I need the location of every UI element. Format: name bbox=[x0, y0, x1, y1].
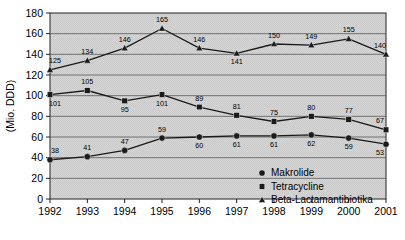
y-axis-tick-label: 140 bbox=[25, 48, 43, 60]
legend-label: Tetracycline bbox=[271, 181, 324, 192]
data-point-marker bbox=[197, 104, 203, 110]
data-point-label: 59 bbox=[345, 142, 353, 151]
data-point-marker bbox=[234, 113, 240, 119]
data-point-marker bbox=[85, 88, 91, 94]
data-point-label: 77 bbox=[345, 106, 353, 115]
data-point-label: 141 bbox=[231, 57, 243, 66]
data-point-label: 89 bbox=[195, 94, 203, 103]
data-point-label: 146 bbox=[193, 35, 205, 44]
x-axis-tick-label: 1993 bbox=[76, 205, 100, 217]
y-axis-tick-label: 180 bbox=[25, 7, 43, 19]
data-point-label: 146 bbox=[119, 35, 131, 44]
data-point-label: 47 bbox=[121, 137, 129, 146]
data-point-label: 150 bbox=[268, 31, 280, 40]
data-point-marker bbox=[47, 92, 53, 98]
data-point-label: 59 bbox=[158, 125, 166, 134]
data-point-marker bbox=[159, 135, 165, 141]
data-point-marker bbox=[383, 127, 389, 133]
data-point-label: 67 bbox=[376, 116, 384, 125]
data-point-label: 134 bbox=[81, 47, 93, 56]
data-point-marker bbox=[346, 117, 352, 123]
data-point-label: 41 bbox=[83, 143, 91, 152]
data-point-marker bbox=[309, 114, 315, 120]
data-point-marker bbox=[196, 134, 202, 140]
legend-marker-circle bbox=[259, 170, 265, 176]
data-point-marker bbox=[122, 98, 128, 104]
data-point-label: 61 bbox=[270, 140, 278, 149]
y-axis-tick-label: 40 bbox=[31, 151, 43, 163]
data-point-label: 155 bbox=[343, 25, 355, 34]
x-axis-tick-label: 1992 bbox=[38, 205, 62, 217]
data-point-label: 105 bbox=[81, 77, 93, 86]
y-axis-tick-label: 60 bbox=[31, 131, 43, 143]
x-axis-tick-label: 2000 bbox=[337, 205, 361, 217]
x-axis-tick-label: 1997 bbox=[225, 205, 249, 217]
data-point-label: 101 bbox=[49, 99, 61, 108]
data-point-marker bbox=[308, 132, 314, 138]
y-axis-tick-label: 0 bbox=[37, 193, 43, 205]
data-point-label: 53 bbox=[376, 148, 384, 157]
data-point-marker bbox=[346, 135, 352, 141]
data-point-label: 80 bbox=[307, 103, 315, 112]
data-point-marker bbox=[84, 154, 90, 160]
data-point-marker bbox=[234, 133, 240, 139]
chart-container: 020406080100120140160180 199219931994199… bbox=[0, 0, 405, 240]
data-point-label: 75 bbox=[270, 108, 278, 117]
data-point-label: 95 bbox=[121, 105, 129, 114]
data-point-label: 61 bbox=[233, 140, 241, 149]
data-point-marker bbox=[122, 147, 128, 153]
x-axis-tick-label: 1998 bbox=[262, 205, 286, 217]
x-axis-tick-label: 2001 bbox=[374, 205, 398, 217]
y-axis-tick-label: 120 bbox=[25, 69, 43, 81]
data-point-marker bbox=[383, 141, 389, 147]
data-point-label: 165 bbox=[156, 15, 168, 24]
line-chart: 020406080100120140160180 199219931994199… bbox=[0, 0, 405, 240]
data-point-marker bbox=[271, 133, 277, 139]
x-axis-tick-label: 1996 bbox=[188, 205, 212, 217]
data-point-label: 125 bbox=[49, 56, 61, 65]
data-point-label: 140 bbox=[374, 41, 386, 50]
x-axis-tick-label: 1995 bbox=[150, 205, 174, 217]
data-point-label: 101 bbox=[156, 99, 168, 108]
y-axis-tick-label: 100 bbox=[25, 89, 43, 101]
y-axis-tick-label: 80 bbox=[31, 110, 43, 122]
data-point-marker bbox=[47, 157, 53, 163]
legend-label: Makrolide bbox=[271, 167, 315, 178]
x-axis-tick-label: 1994 bbox=[113, 205, 137, 217]
data-point-label: 38 bbox=[51, 146, 59, 155]
data-point-label: 62 bbox=[307, 139, 315, 148]
y-axis-tick-label: 20 bbox=[31, 172, 43, 184]
x-axis-tick-label: 1999 bbox=[300, 205, 324, 217]
data-point-label: 60 bbox=[195, 141, 203, 150]
legend-label: Beta-Lactamantibiotika bbox=[271, 194, 373, 205]
data-point-marker bbox=[271, 119, 277, 125]
legend-marker-square bbox=[259, 184, 265, 190]
y-axis-tick-label: 160 bbox=[25, 27, 43, 39]
data-point-marker bbox=[159, 92, 165, 98]
y-axis-title: (Mio. DDD) bbox=[4, 80, 16, 133]
data-point-label: 149 bbox=[305, 32, 317, 41]
data-point-label: 81 bbox=[233, 102, 241, 111]
